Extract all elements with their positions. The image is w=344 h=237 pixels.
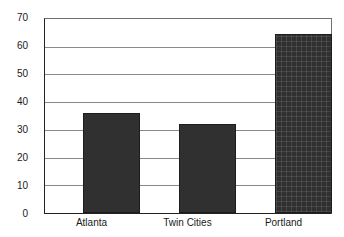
y-axis-tick-label: 0 bbox=[2, 209, 28, 219]
bar-twin-cities bbox=[179, 124, 236, 213]
y-axis-tick-label: 50 bbox=[2, 69, 28, 79]
bar-atlanta bbox=[83, 113, 140, 213]
y-axis-tick-label: 40 bbox=[2, 97, 28, 107]
y-axis-tick-label: 20 bbox=[2, 153, 28, 163]
y-axis-tick-label: 30 bbox=[2, 125, 28, 135]
x-axis-label-twin-cities: Twin Cities bbox=[150, 217, 225, 229]
y-axis-tick-label: 60 bbox=[2, 41, 28, 51]
x-axis-label-portland: Portland bbox=[246, 217, 321, 229]
plot-area bbox=[44, 18, 332, 214]
y-axis-tick-label: 70 bbox=[2, 13, 28, 23]
y-axis-tick-label: 10 bbox=[2, 181, 28, 191]
bar-chart-figure: 70 60 50 40 30 20 10 0 Atlanta Twin Citi… bbox=[0, 0, 344, 237]
x-axis-label-atlanta: Atlanta bbox=[54, 217, 129, 229]
bar-portland bbox=[275, 34, 332, 213]
